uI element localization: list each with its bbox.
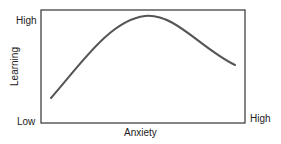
y-tick-low: Low [17,117,35,127]
y-tick-high: High [16,16,37,26]
x-tick-high: High [250,114,271,124]
learning-curve [51,16,235,98]
y-axis-label: Learning [9,47,20,87]
chart-canvas [0,0,281,144]
x-axis-label: Anxiety [124,128,157,138]
plot-frame [41,10,245,123]
